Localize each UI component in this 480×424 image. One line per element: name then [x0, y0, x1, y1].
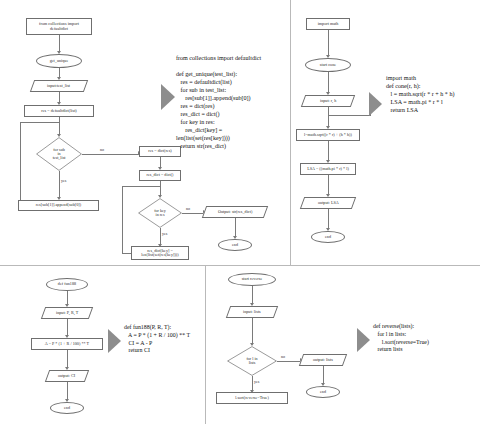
- code-block-get-unique: from collections import defaultdict def …: [176, 54, 261, 150]
- node-label: res = dict(res): [148, 149, 172, 153]
- node-label: res_dict[key] = len(list(set(res[key]))): [141, 249, 178, 258]
- node-label: import math: [318, 22, 339, 26]
- node-label: res[sub[1]].append(sub[0]): [36, 203, 81, 207]
- edge-label-no: no: [186, 206, 190, 211]
- connector: [67, 291, 68, 305]
- node-label: output: LSA: [318, 201, 339, 205]
- node-label: input:test_list: [47, 84, 70, 88]
- connector: [59, 117, 60, 135]
- code-block-reverse: def reverse(lists): for l in lists: l.so…: [373, 323, 429, 354]
- node-res-defaultdict[interactable]: res = defaultdict(list): [24, 105, 94, 117]
- code-block-fun188: def fun188(P, R, T): A = P * (1 + R / 10…: [124, 324, 190, 355]
- connector: [252, 318, 253, 344]
- flow-direction-arrow: [108, 329, 121, 353]
- connector: [235, 218, 236, 237]
- node-for-key-decision[interactable]: for key in res: [138, 198, 182, 228]
- connector: [328, 72, 329, 93]
- connector: [328, 115, 371, 116]
- node-label: A = P * (1 + R / 100) ** T: [45, 342, 89, 346]
- flow-direction-arrow: [369, 92, 382, 116]
- edge-label-yes: yes: [61, 178, 66, 183]
- node-label: input: r, h: [320, 99, 336, 103]
- node-start-cone[interactable]: start cone: [305, 58, 351, 72]
- node-label: l.sort(reverse=True): [235, 396, 269, 400]
- node-end[interactable]: end: [311, 231, 345, 243]
- connector: [328, 209, 329, 229]
- edge-label-yes: yes: [162, 231, 167, 236]
- connector: [59, 35, 60, 52]
- connector: [323, 366, 324, 384]
- node-res-append[interactable]: res[sub[1]].append(sub[0]): [18, 200, 99, 211]
- node-label: end: [232, 243, 238, 247]
- connector: [82, 154, 139, 155]
- connector: [252, 376, 253, 391]
- node-for-sub-decision[interactable]: for sub in test_list: [36, 137, 82, 171]
- node-label: end: [320, 390, 326, 394]
- node-label: end: [325, 235, 331, 239]
- node-output-ci[interactable]: output: CI: [45, 370, 89, 382]
- connector: [160, 181, 161, 196]
- node-res-dict-init[interactable]: res_dict = dict(): [139, 170, 181, 181]
- node-input-lists[interactable]: input: lists: [226, 306, 278, 318]
- node-label: for l in lists: [246, 357, 257, 366]
- node-label: input: P, R, T: [56, 311, 78, 315]
- node-output-lsa[interactable]: output: LSA: [300, 197, 356, 209]
- node-input-test-list[interactable]: input:test_list: [30, 80, 88, 92]
- node-label-wrap: for l in lists: [227, 346, 277, 376]
- connector: [122, 186, 123, 253]
- panel-divider-vertical-top: [290, 0, 291, 265]
- node-label: res = defaultdict(list): [41, 109, 77, 113]
- node-end[interactable]: end: [306, 386, 340, 398]
- connector: [252, 286, 253, 304]
- node-label: res_dict = dict(): [146, 173, 173, 177]
- connector: [122, 253, 131, 254]
- node-for-l-decision[interactable]: for l in lists: [227, 346, 277, 376]
- connector: [277, 361, 301, 362]
- node-res-dict-assign[interactable]: res_dict[key] = len(list(set(res[key]))): [131, 246, 189, 260]
- panel-divider-horizontal: [0, 265, 480, 266]
- node-import-defaultdict[interactable]: from collections import defaultdict: [26, 18, 92, 35]
- node-compute-a[interactable]: A = P * (1 + R / 100) ** T: [31, 338, 103, 350]
- connector: [328, 30, 329, 56]
- connector: [328, 107, 329, 127]
- node-input-r-h[interactable]: input: r, h: [301, 95, 355, 107]
- node-label-wrap: for key in res: [138, 198, 182, 228]
- connector: [328, 175, 329, 195]
- node-end[interactable]: end: [50, 402, 84, 414]
- node-import-math[interactable]: import math: [306, 18, 350, 30]
- node-def-fun188[interactable]: def fun188: [46, 278, 88, 291]
- diagram-canvas: from collections import defaultdict get_…: [0, 0, 480, 424]
- connector: [67, 350, 68, 368]
- node-compute-l[interactable]: l=math.sqrt((r * r) + (h * h)): [296, 129, 360, 141]
- node-start-reverse[interactable]: start reverse: [228, 273, 276, 286]
- node-get-unique[interactable]: get_unique: [36, 54, 82, 68]
- node-label: def fun188: [58, 282, 76, 286]
- edge-label-no: no: [281, 354, 285, 359]
- node-label: start reverse: [242, 277, 263, 281]
- connector: [122, 186, 160, 187]
- connector: [20, 122, 21, 206]
- node-output-res-dict[interactable]: Output: str(res_dict): [202, 206, 268, 218]
- node-label: l=math.sqrt((r * r) + (h * h)): [304, 133, 352, 137]
- node-label: output: CI: [58, 374, 75, 378]
- node-sort-reverse[interactable]: l.sort(reverse=True): [216, 392, 288, 404]
- connector: [59, 171, 60, 198]
- flow-direction-arrow: [357, 328, 370, 352]
- node-label: from collections import defaultdict: [39, 22, 79, 31]
- edge-label-no: no: [100, 147, 104, 152]
- node-label: start cone: [320, 63, 336, 67]
- node-label: end: [64, 406, 70, 410]
- node-output-lists[interactable]: output: lists: [299, 354, 347, 366]
- node-label: input: lists: [243, 310, 261, 314]
- node-input-p-r-t[interactable]: input: P, R, T: [41, 307, 93, 319]
- node-label: Output: str(res_dict): [218, 210, 252, 214]
- connector: [182, 213, 204, 214]
- code-block-cone: import math def cone(r, h): l = math.sqr…: [386, 74, 454, 114]
- node-compute-lsa[interactable]: LSA = ((math.pi * r) * l): [300, 163, 356, 175]
- node-label: for key in res: [154, 209, 166, 218]
- node-end[interactable]: end: [218, 239, 252, 251]
- node-res-dict[interactable]: res = dict(res): [139, 146, 181, 157]
- panel-divider-vertical-bottom: [205, 266, 206, 424]
- node-label: output: lists: [313, 358, 333, 362]
- connector: [67, 382, 68, 400]
